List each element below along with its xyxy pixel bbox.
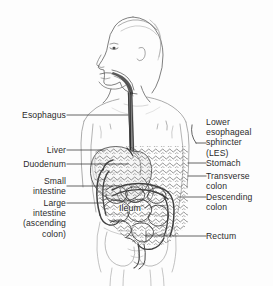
label-liver: Liver [0,145,66,155]
label-rectum: Rectum [206,231,273,241]
label-duodenum: Duodenum [0,159,66,169]
label-descending-colon: Descending colon [206,192,273,212]
label-esophagus: Esophagus [0,110,66,120]
label-transverse-colon: Transverse colon [206,171,273,191]
label-large-intestine: Large intestine (ascending colon) [0,198,66,239]
label-stomach: Stomach [206,158,273,168]
label-lower-esophageal-sphincter: Lower esophageal sphincter (LES) [206,117,273,158]
digestive-system-figure: Esophagus Liver Duodenum Small intestine… [0,0,273,286]
leader-les-hook [192,125,197,143]
label-small-intestine: Small intestine [0,176,66,196]
label-ileum: Ileum [110,203,150,213]
